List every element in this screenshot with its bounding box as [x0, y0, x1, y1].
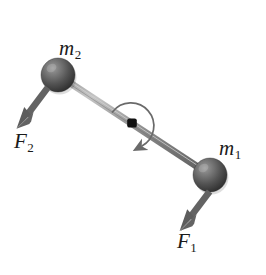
- label-force-f2-subscript: 2: [27, 140, 34, 155]
- label-force-f1-subscript: 1: [190, 240, 197, 255]
- label-force-f2: F2: [14, 131, 34, 154]
- label-mass-m1: m1: [219, 138, 241, 161]
- force-arrow-f1-icon: [180, 191, 210, 231]
- label-mass-m2-subscript: 2: [75, 47, 82, 62]
- label-mass-m2: m2: [59, 38, 81, 61]
- label-force-f2-base: F: [14, 129, 27, 153]
- label-mass-m1-base: m: [219, 136, 234, 160]
- mass-sphere-m1: [193, 158, 229, 195]
- pivot-point-dot: [127, 118, 137, 127]
- label-mass-m1-subscript: 1: [235, 147, 242, 162]
- force-arrow-f2-icon: [17, 88, 48, 129]
- physics-diagram-rotating-rod: m2 m1 F2 F1: [0, 0, 266, 275]
- label-force-f1: F1: [177, 231, 197, 254]
- label-mass-m2-base: m: [59, 36, 74, 60]
- label-force-f1-base: F: [177, 229, 190, 253]
